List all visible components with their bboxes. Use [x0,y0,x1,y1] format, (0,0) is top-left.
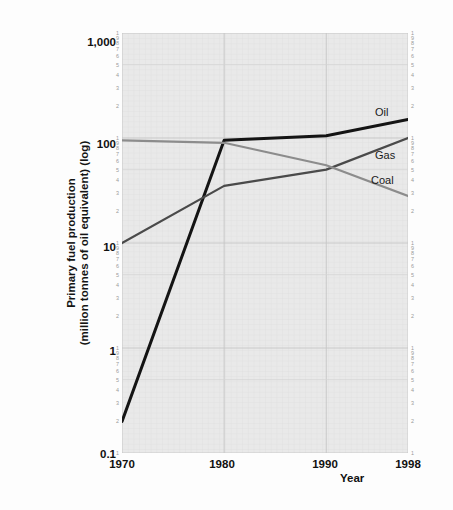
y-minor-tick-right-1-5: 5 [411,377,414,383]
y-tick-label-10: 10 [58,241,116,253]
y-minor-tick-left-10-5: 5 [110,272,119,278]
y-minor-tick-right-100-3: 3 [411,190,414,196]
y-minor-tick-left-1-8: 8 [110,355,119,361]
y-tick-label-1000: 1,000 [58,36,116,48]
y-minor-tick-right-1000-2: 2 [411,103,414,109]
y-minor-tick-right-100-5: 5 [411,167,414,173]
y-minor-tick-left-10-8: 8 [110,250,119,256]
y-minor-tick-right-10-5: 5 [411,272,414,278]
y-minor-tick-right-1-6: 6 [411,368,414,374]
y-minor-tick-right-100-6: 6 [411,158,414,164]
y-minor-tick-right-1000-6: 6 [411,53,414,59]
y-minor-tick-left-1-3: 3 [110,400,119,406]
y-minor-tick-right-100-7: 7 [411,151,414,157]
y-minor-tick-right-10-8: 8 [411,250,414,256]
series-label-gas: Gas [375,149,395,161]
y-minor-tick-right-1000-5: 5 [411,62,414,68]
y-minor-tick-left-1000-3: 3 [110,85,119,91]
y-minor-tick-left-10-4: 4 [110,282,119,288]
y-minor-tick-right-0.1-1: 1 [411,450,414,456]
y-minor-tick-right-1000-3: 3 [411,85,414,91]
y-minor-tick-right-1-4: 4 [411,387,414,393]
y-minor-tick-left-100-7: 7 [110,151,119,157]
y-tick-label-100: 100 [58,138,116,150]
y-minor-tick-left-100-4: 4 [110,177,119,183]
series-label-coal: Coal [371,174,394,186]
y-minor-tick-right-10-3: 3 [411,295,414,301]
y-minor-tick-right-10-2: 2 [411,313,414,319]
y-minor-tick-left-1-4: 4 [110,387,119,393]
y-minor-tick-right-1000-8: 8 [411,40,414,46]
y-minor-tick-right-100-4: 4 [411,177,414,183]
series-label-oil: Oil [375,106,388,118]
x-tick-label-1980: 1980 [200,458,244,470]
y-minor-tick-left-100-5: 5 [110,167,119,173]
y-minor-tick-left-10-3: 3 [110,295,119,301]
x-tick-label-1998: 1998 [386,458,430,470]
x-axis-title: Year [340,472,364,484]
y-minor-tick-right-100-2: 2 [411,208,414,214]
y-minor-tick-left-1-7: 7 [110,361,119,367]
y-minor-tick-right-10-4: 4 [411,282,414,288]
y-minor-tick-left-10-6: 6 [110,263,119,269]
x-tick-label-1990: 1990 [303,458,347,470]
y-minor-tick-left-1000-5: 5 [110,62,119,68]
y-minor-tick-left-1-6: 6 [110,368,119,374]
y-minor-tick-left-100-3: 3 [110,190,119,196]
y-minor-tick-left-1-5: 5 [110,377,119,383]
y-tick-label-1: 1 [58,345,116,357]
y-minor-tick-left-100-6: 6 [110,158,119,164]
y-minor-tick-right-1-3: 3 [411,400,414,406]
y-minor-tick-left-1000-7: 7 [110,46,119,52]
y-minor-tick-right-1000-7: 7 [411,46,414,52]
y-minor-tick-left-100-2: 2 [110,208,119,214]
y-minor-tick-right-10-7: 7 [411,256,414,262]
y-minor-tick-right-1-8: 8 [411,355,414,361]
y-minor-tick-left-1000-8: 8 [110,40,119,46]
y-minor-tick-right-100-8: 8 [411,145,414,151]
y-minor-tick-right-1-7: 7 [411,361,414,367]
y-minor-tick-left-10-2: 2 [110,313,119,319]
y-minor-tick-left-10-7: 7 [110,256,119,262]
y-minor-tick-right-1000-4: 4 [411,72,414,78]
chart-canvas [122,33,408,453]
chart-figure: Primary fuel production (million tonnes … [0,0,453,510]
plot-area [122,33,408,453]
y-minor-tick-left-100-8: 8 [110,145,119,151]
y-minor-tick-right-1-2: 2 [411,418,414,424]
y-minor-tick-left-1000-6: 6 [110,53,119,59]
y-minor-tick-left-1-2: 2 [110,418,119,424]
x-tick-label-1970: 1970 [100,458,144,470]
y-minor-tick-left-1000-2: 2 [110,103,119,109]
y-minor-tick-right-10-6: 6 [411,263,414,269]
y-minor-tick-left-0.1-1: 1 [110,450,119,456]
y-minor-tick-left-1000-4: 4 [110,72,119,78]
